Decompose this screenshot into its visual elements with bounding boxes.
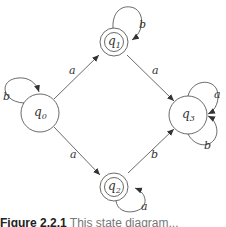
transition-label: a (214, 88, 221, 101)
caption-prefix: Figure 2.2.1 (0, 216, 67, 227)
transition-label: b (3, 90, 10, 103)
state-q3-label: q3 (182, 107, 195, 123)
automaton-diagram: q0 b q1 b q2 a q3 a b a (0, 0, 226, 227)
transition-label: a (152, 64, 159, 77)
figure-caption: Figure 2.2.1 This state diagram... (0, 216, 179, 227)
transition-q0-q0: b (3, 78, 39, 103)
transition-q3-q3-a: a (188, 82, 221, 114)
state-q2: q2 (100, 173, 128, 201)
transition-q1-q1: b (113, 7, 146, 40)
transition-label: a (70, 148, 77, 161)
state-q3: q3 (169, 96, 207, 134)
transition-label: b (151, 148, 158, 161)
caption-rest: This state diagram... (67, 216, 179, 227)
state-q0: q0 (21, 94, 59, 132)
state-q1-label: q1 (108, 34, 121, 50)
transition-q1-q3: a (127, 55, 174, 101)
state-q0-label: q0 (34, 105, 47, 121)
transition-q0-q1: a (54, 55, 99, 99)
transition-label: b (139, 18, 146, 31)
transition-q2-q3: b (128, 129, 174, 173)
state-q2-label: q2 (108, 179, 121, 195)
transition-label: b (204, 139, 211, 152)
state-q1: q1 (100, 28, 128, 56)
transition-label: a (141, 200, 148, 213)
transition-q0-q2: a (54, 127, 100, 175)
transition-label: a (69, 64, 76, 77)
